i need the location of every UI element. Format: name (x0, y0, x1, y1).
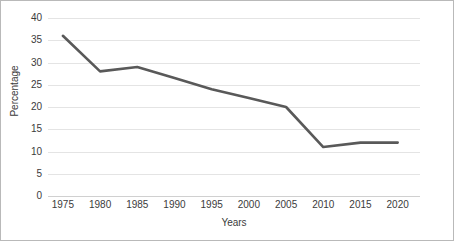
plot-area (48, 18, 420, 196)
y-tick-label: 10 (31, 147, 42, 157)
chart-container: 0510152025303540 Percentage 197519801985… (0, 0, 454, 241)
y-axis-title: Percentage (9, 41, 21, 141)
x-tick-label: 1995 (192, 199, 232, 211)
y-tick-label: 5 (36, 169, 42, 179)
x-tick-label: 2020 (378, 199, 418, 211)
x-tick-label: 2010 (303, 199, 343, 211)
y-tick-label: 30 (31, 58, 42, 68)
y-tick-label: 20 (31, 102, 42, 112)
y-tick-label: 40 (31, 13, 42, 23)
x-tick-label: 1975 (43, 199, 83, 211)
y-tick-label: 35 (31, 35, 42, 45)
x-tick-label: 2000 (229, 199, 269, 211)
x-tick-label: 1980 (80, 199, 120, 211)
x-tick-label: 1985 (117, 199, 157, 211)
gridline (48, 196, 420, 197)
y-tick-label: 0 (36, 191, 42, 201)
x-tick-label: 2005 (266, 199, 306, 211)
x-tick-label: 2015 (340, 199, 380, 211)
x-axis-title: Years (48, 217, 420, 229)
y-tick-label: 25 (31, 80, 42, 90)
series-polyline (63, 36, 398, 147)
y-tick-label: 15 (31, 124, 42, 134)
y-axis-tick-labels: 0510152025303540 (1, 1, 42, 241)
series-line-percentage (48, 18, 420, 196)
x-tick-label: 1990 (154, 199, 194, 211)
